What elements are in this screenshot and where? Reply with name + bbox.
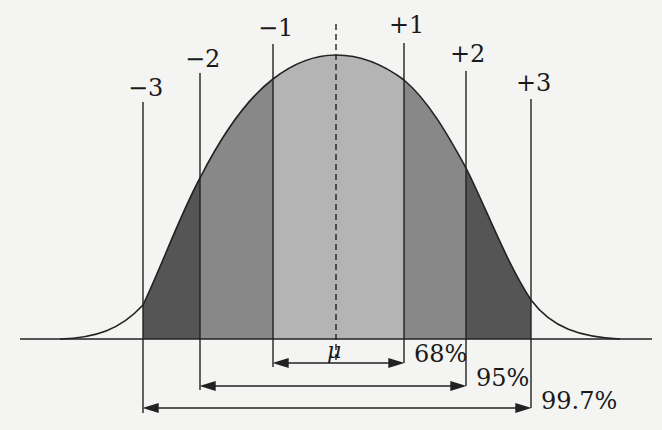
label-minus3: −3 <box>128 74 163 102</box>
normal-distribution-diagram: −3 −2 −1 +1 +2 +3 μ 68% 95% 99.7% <box>0 0 662 430</box>
band-2sd-left <box>200 40 273 339</box>
label-plus3: +3 <box>516 69 551 97</box>
range-arrows <box>145 359 529 412</box>
label-minus1: −1 <box>258 14 293 42</box>
band-1sd <box>273 40 404 339</box>
label-minus2: −2 <box>185 45 220 73</box>
pct-997: 99.7% <box>541 387 617 415</box>
label-plus2: +2 <box>450 40 485 68</box>
pct-95: 95% <box>476 364 529 392</box>
band-2sd-right <box>404 40 466 339</box>
mean-label: μ <box>327 338 341 363</box>
label-plus1: +1 <box>389 11 424 39</box>
shaded-bands <box>143 40 531 339</box>
pct-68: 68% <box>414 340 467 368</box>
